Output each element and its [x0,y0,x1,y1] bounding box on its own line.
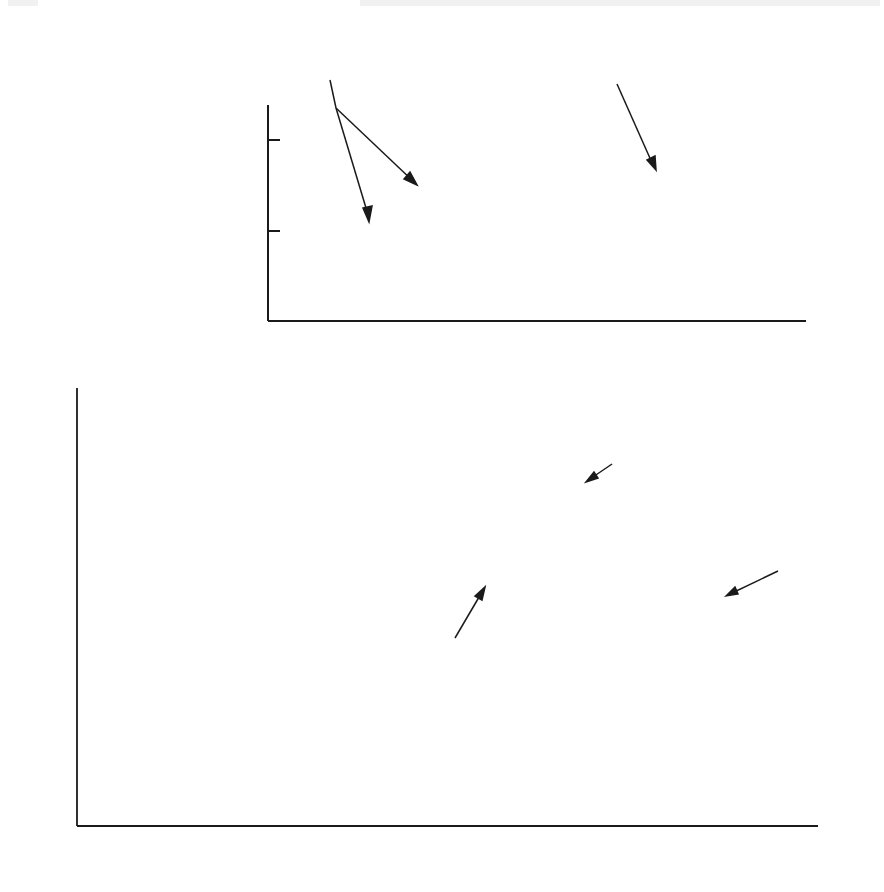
figure [0,0,884,892]
arrow-series-0-01-2 [586,464,612,482]
reconstructed-arrows [330,80,417,222]
original-profile-arrow [617,84,656,170]
ez-meas-chart [60,388,818,826]
top-profile-chart [0,0,806,321]
arrow-series-0-001-3 [726,571,778,596]
arrow-series-0-1-4 [455,587,485,638]
